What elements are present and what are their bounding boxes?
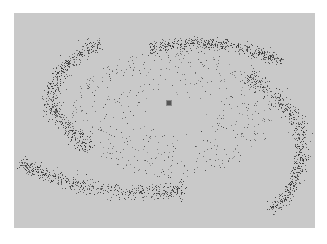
galaxy-panel (14, 13, 315, 228)
galaxy-core-marker (167, 101, 171, 105)
galaxy-particles (14, 13, 315, 228)
